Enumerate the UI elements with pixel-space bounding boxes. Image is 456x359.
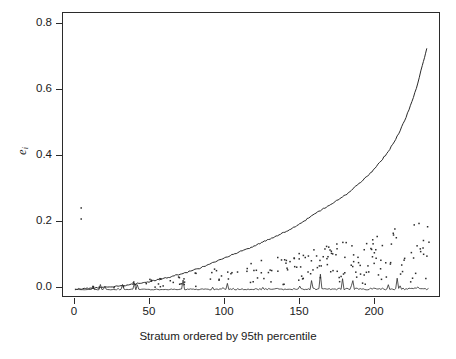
- scatter-point: [286, 267, 288, 269]
- scatter-point: [162, 285, 164, 287]
- scatter-point: [218, 280, 220, 282]
- scatter-point: [400, 273, 402, 275]
- scatter-point: [180, 283, 182, 285]
- scatter-point: [252, 281, 254, 283]
- scatter-point: [420, 248, 422, 250]
- scatter-point: [363, 249, 365, 251]
- y-tick-label: 0.0: [0, 281, 52, 293]
- scatter-point: [331, 253, 333, 255]
- scatter-point: [425, 278, 427, 280]
- scatter-point: [426, 255, 428, 257]
- scatter-point: [375, 249, 377, 251]
- scatter-point: [411, 252, 413, 254]
- scatter-point: [332, 270, 334, 272]
- scatter-point: [342, 242, 344, 244]
- scatter-point: [170, 280, 172, 282]
- scatter-point: [336, 248, 338, 250]
- scatter-point: [331, 250, 333, 252]
- scatter-point: [393, 234, 395, 236]
- scatter-point: [160, 286, 162, 288]
- y-tick-label: 0.2: [0, 215, 52, 227]
- scatter-point: [366, 272, 368, 274]
- scatter-point: [368, 271, 370, 273]
- scatter-point: [158, 283, 160, 285]
- scatter-point: [373, 263, 375, 265]
- scatter-point: [396, 237, 398, 239]
- y-tick-label: 0.8: [0, 17, 52, 29]
- scatter-point: [410, 281, 412, 283]
- scatter-point: [358, 262, 360, 264]
- scatter-point: [298, 253, 300, 255]
- scatter-point: [294, 258, 296, 260]
- scatter-point: [277, 257, 279, 259]
- scatter-point: [390, 263, 392, 265]
- scatter-point: [320, 265, 322, 267]
- scatter-point: [312, 269, 314, 271]
- scatter-point: [313, 249, 315, 251]
- scatter-point: [427, 226, 429, 228]
- scatter-point: [357, 257, 359, 259]
- scatter-point: [216, 270, 218, 272]
- scatter-point: [271, 270, 273, 272]
- scatter-point: [336, 271, 338, 273]
- x-tick-mark: [149, 298, 150, 304]
- scatter-point: [359, 265, 361, 267]
- scatter-point: [285, 262, 287, 264]
- scatter-point: [133, 282, 135, 284]
- x-tick-label: 100: [204, 306, 244, 318]
- scatter-point: [403, 259, 405, 261]
- scatter-point: [340, 276, 342, 278]
- scatter-point: [344, 257, 346, 259]
- scatter-point: [338, 277, 340, 279]
- scatter-point: [301, 275, 303, 277]
- scatter-point: [317, 267, 319, 269]
- scatter-point: [310, 273, 312, 275]
- scatter-point: [363, 274, 365, 276]
- x-tick-label: 50: [129, 306, 169, 318]
- scatter-point: [330, 271, 332, 273]
- scatter-point: [327, 264, 329, 266]
- scatter-point: [362, 282, 364, 284]
- scatter-point: [195, 286, 197, 288]
- scatter-point: [228, 278, 230, 280]
- scatter-point: [284, 259, 286, 261]
- scatter-point: [210, 278, 212, 280]
- scatter-point: [393, 233, 395, 235]
- x-tick-label: 200: [354, 306, 394, 318]
- scatter-point: [418, 223, 420, 225]
- y-axis-title: ei: [2, 137, 42, 165]
- scatter-point: [80, 207, 82, 209]
- scatter-point: [352, 266, 354, 268]
- scatter-point: [356, 276, 358, 278]
- scatter-point: [355, 271, 357, 273]
- scatter-point: [311, 260, 313, 262]
- scatter-point: [413, 224, 415, 226]
- scatter-point: [329, 249, 331, 251]
- scatter-point: [268, 272, 270, 274]
- scatter-point: [227, 271, 229, 273]
- scatter-point: [364, 284, 366, 286]
- scatter-point: [385, 262, 387, 264]
- x-tick-mark: [74, 298, 75, 304]
- scatter-point: [324, 248, 326, 250]
- plot-data-layer: [62, 12, 440, 297]
- scatter-point: [344, 272, 346, 274]
- x-tick-mark: [299, 298, 300, 304]
- plot-svg: [62, 12, 440, 297]
- scatter-point: [256, 270, 258, 272]
- scatter-point: [289, 261, 291, 263]
- scatter-point: [390, 262, 392, 264]
- scatter-point: [253, 270, 255, 272]
- scatter-point: [378, 274, 380, 276]
- scatter-point: [353, 254, 355, 256]
- scatter-point: [336, 243, 338, 245]
- scatter-point: [305, 257, 307, 259]
- scatter-point: [327, 256, 329, 258]
- scatter-point: [298, 258, 300, 260]
- scatter-point: [179, 283, 181, 285]
- scatter-point: [184, 281, 186, 283]
- scatter-point: [402, 271, 404, 273]
- scatter-point: [183, 278, 185, 280]
- scatter-point: [351, 245, 353, 247]
- scatter-point: [413, 257, 415, 259]
